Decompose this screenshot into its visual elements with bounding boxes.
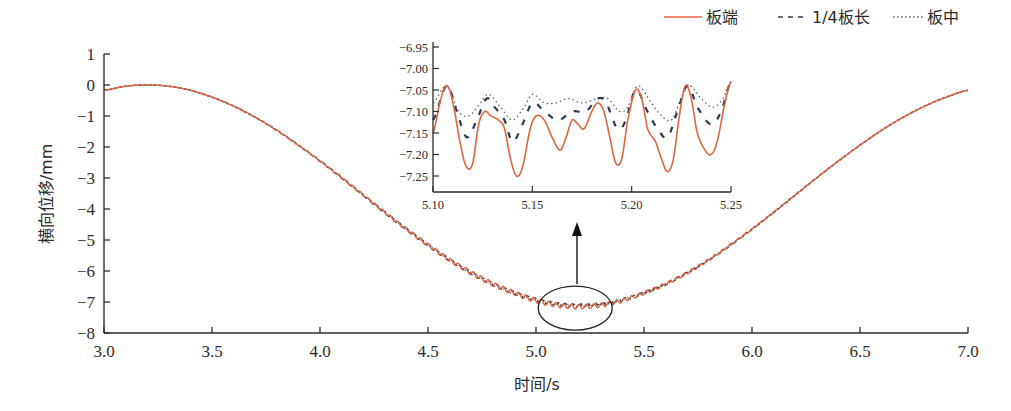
inset-y-tick-label: −7.25 bbox=[399, 170, 428, 184]
y-tick-label: −6 bbox=[77, 262, 95, 281]
displacement-chart: 10−1−2−3−4−5−6−7−83.03.54.04.55.05.56.06… bbox=[0, 0, 1011, 411]
x-axis-title: 时间/s bbox=[514, 375, 560, 394]
inset-x-tick-label: 5.20 bbox=[621, 198, 643, 212]
y-tick-label: 0 bbox=[87, 76, 96, 95]
inset-y-tick-label: −7.00 bbox=[399, 62, 428, 76]
inset-y-tick-label: −6.95 bbox=[399, 41, 428, 55]
inset-plot: −6.95−7.00−7.05−7.10−7.15−7.20−7.255.105… bbox=[399, 41, 742, 213]
arrow-head-icon bbox=[572, 222, 582, 236]
y-tick-label: −5 bbox=[77, 231, 95, 250]
inset-x-tick-label: 5.25 bbox=[720, 198, 742, 212]
y-tick-label: −4 bbox=[77, 200, 96, 219]
x-tick-label: 6.5 bbox=[849, 342, 870, 361]
x-tick-label: 7.0 bbox=[957, 342, 978, 361]
inset-y-tick-label: −7.05 bbox=[399, 84, 428, 98]
zoom-annotation bbox=[538, 222, 612, 330]
inset-x-tick-label: 5.10 bbox=[422, 198, 444, 212]
x-tick-label: 5.5 bbox=[633, 342, 654, 361]
inset-series-lines bbox=[433, 81, 731, 176]
main-series-lines bbox=[104, 85, 968, 309]
inset-series-line-板端 bbox=[433, 81, 731, 176]
y-axis-title: 横向位移/mm bbox=[37, 144, 56, 245]
x-tick-label: 4.0 bbox=[309, 342, 330, 361]
y-tick-label: −8 bbox=[77, 324, 95, 343]
legend-label: 1/4板长 bbox=[812, 8, 870, 27]
inset-y-tick-label: −7.20 bbox=[399, 148, 428, 162]
legend-label: 板端 bbox=[706, 8, 738, 27]
legend: 板端1/4板长板中 bbox=[664, 8, 959, 27]
y-tick-label: −1 bbox=[77, 107, 95, 126]
legend-label: 板中 bbox=[927, 8, 959, 27]
x-tick-label: 6.0 bbox=[741, 342, 762, 361]
y-tick-label: −2 bbox=[77, 138, 95, 157]
x-tick-label: 3.5 bbox=[201, 342, 222, 361]
x-tick-label: 4.5 bbox=[417, 342, 438, 361]
inset-x-tick-label: 5.15 bbox=[521, 198, 543, 212]
x-tick-label: 5.0 bbox=[525, 342, 546, 361]
y-tick-label: −3 bbox=[77, 169, 95, 188]
inset-y-tick-label: −7.15 bbox=[399, 127, 428, 141]
inset-y-tick-label: −7.10 bbox=[399, 105, 428, 119]
y-tick-label: 1 bbox=[87, 45, 96, 64]
series-line-1/4板长 bbox=[104, 85, 968, 307]
series-line-板中 bbox=[104, 85, 968, 306]
series-line-板端 bbox=[104, 85, 968, 309]
inset-axes: −6.95−7.00−7.05−7.10−7.15−7.20−7.255.105… bbox=[399, 41, 742, 213]
x-tick-label: 3.0 bbox=[93, 342, 114, 361]
y-tick-label: −7 bbox=[77, 293, 96, 312]
